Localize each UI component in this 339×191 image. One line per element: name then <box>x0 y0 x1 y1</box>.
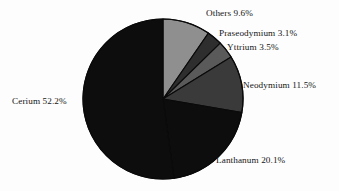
slice-label-cerium: Cerium 52.2% <box>12 97 67 106</box>
slice-label-yttrium: Yttrium 3.5% <box>227 43 279 52</box>
pie-slice-lanthanum <box>163 99 242 178</box>
slice-label-praseodymium: Praseodymium 3.1% <box>219 29 297 38</box>
pie-chart-figure: Others 9.6% Praseodymium 3.1% Yttrium 3.… <box>0 0 339 191</box>
slice-label-neodymium: Neodymium 11.5% <box>243 81 316 90</box>
pie-slice-cerium <box>83 19 174 179</box>
slice-label-lanthanum: Lanthanum 20.1% <box>216 156 285 165</box>
slice-label-others: Others 9.6% <box>206 9 253 18</box>
